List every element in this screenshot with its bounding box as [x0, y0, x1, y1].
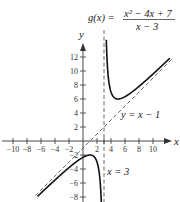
x-tick-label: −10 [7, 145, 20, 154]
y-tick-label: 12 [70, 53, 78, 62]
y-tick-label: 4 [74, 109, 78, 118]
graph-canvas: x y −10−8−6−4−2246810 12108642−2−4−6−8 g… [0, 0, 180, 202]
x-tick-label: −8 [23, 145, 32, 154]
y-tick-label: 2 [74, 123, 78, 132]
vertical-asymptote-label: x = 3 [106, 166, 129, 177]
function-denominator: x − 3 [135, 21, 158, 32]
y-ticks: 12108642−2−4−6−8 [69, 53, 86, 202]
x-tick-label: 4 [109, 145, 113, 154]
function-numerator: x² − 4x + 7 [123, 8, 172, 19]
oblique-asymptote-label: y = x − 1 [120, 109, 160, 120]
y-tick-label: 8 [74, 81, 78, 90]
y-tick-label: −6 [69, 179, 78, 188]
x-tick-label: −6 [37, 145, 46, 154]
y-tick-label: −8 [69, 193, 78, 202]
x-axis-label: x [173, 135, 179, 147]
x-tick-label: 6 [123, 145, 127, 154]
x-tick-label: 8 [137, 145, 141, 154]
function-lhs: g(x) = [88, 12, 115, 24]
x-ticks: −10−8−6−4−2246810 [7, 138, 157, 154]
y-axis-label: y [78, 28, 84, 40]
y-axis-arrow-icon [80, 43, 86, 51]
x-tick-label: 2 [95, 145, 99, 154]
y-tick-label: 10 [70, 67, 78, 76]
function-label: g(x) = x² − 4x + 7 x − 3 [88, 8, 175, 32]
x-axis-arrow-icon [164, 138, 172, 144]
y-tick-label: −2 [69, 151, 78, 160]
y-tick-label: 6 [74, 95, 78, 104]
y-axis: y [78, 28, 86, 202]
curve-right-branch [106, 40, 169, 99]
x-tick-label: −4 [51, 145, 60, 154]
x-tick-label: 10 [149, 145, 157, 154]
